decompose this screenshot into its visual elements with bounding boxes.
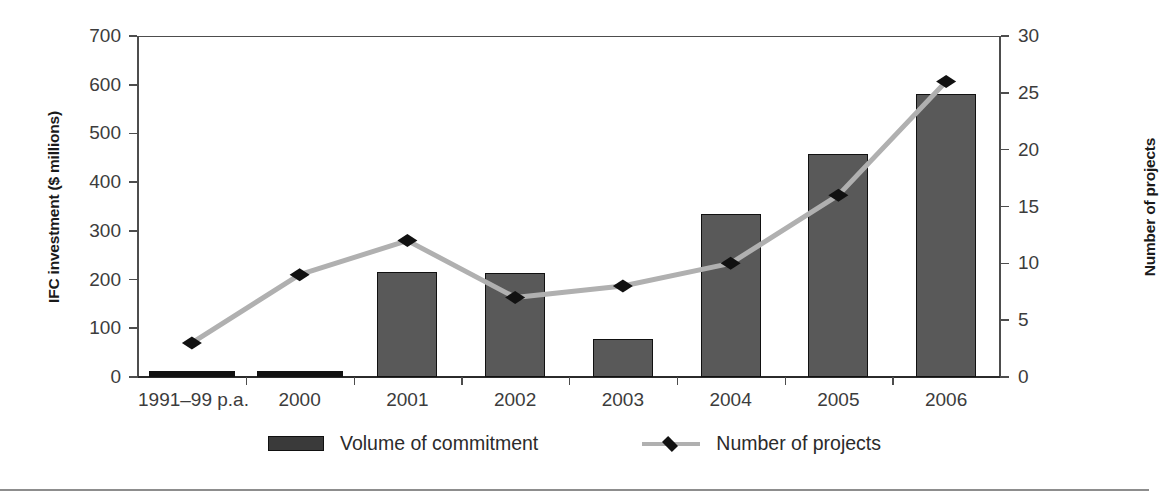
right-tick-label: 30 (1018, 26, 1138, 45)
plot-top-border (138, 36, 1000, 37)
right-tick-label: 15 (1018, 197, 1138, 216)
right-tick-mark (1001, 149, 1009, 151)
right-axis-title: Number of projects (1141, 57, 1159, 357)
right-tick-label: 25 (1018, 83, 1138, 102)
legend-item-volume: Volume of commitment (268, 432, 538, 455)
left-tick-mark (129, 279, 137, 281)
x-tick-label: 1991–99 p.a. (138, 389, 246, 411)
legend-label-projects: Number of projects (716, 432, 881, 455)
left-tick-mark (129, 230, 137, 232)
left-tick-label: 400 (1, 172, 121, 191)
x-tick-mark (785, 377, 786, 385)
x-tick-mark (892, 377, 893, 385)
x-tick-label: 2000 (246, 389, 354, 411)
left-tick-mark (129, 327, 137, 329)
left-tick-label: 700 (1, 26, 121, 45)
x-tick-label: 2004 (677, 389, 785, 411)
bar (485, 273, 545, 377)
left-tick-mark (129, 181, 137, 183)
right-tick-mark (1001, 35, 1009, 37)
x-tick-label: 2006 (892, 389, 1000, 411)
right-tick-mark (1001, 319, 1009, 321)
right-tick-label: 0 (1018, 367, 1138, 386)
x-tick-label: 2003 (569, 389, 677, 411)
bar (257, 371, 343, 377)
x-tick-mark (246, 377, 247, 385)
x-tick-label: 2002 (461, 389, 569, 411)
left-axis-title: IFC investment ($ millions) (45, 57, 63, 357)
right-tick-mark (1001, 92, 1009, 94)
x-tick-mark (569, 377, 570, 385)
right-tick-label: 5 (1018, 310, 1138, 329)
x-tick-label: 2001 (354, 389, 462, 411)
legend-label-volume: Volume of commitment (340, 432, 538, 455)
left-tick-mark (129, 376, 137, 378)
right-tick-mark (1001, 206, 1009, 208)
bar (377, 272, 437, 377)
x-tick-label: 2005 (785, 389, 893, 411)
right-tick-mark (1001, 376, 1009, 378)
bar (808, 154, 868, 377)
bar (149, 371, 235, 377)
left-tick-label: 600 (1, 75, 121, 94)
legend-item-projects: Number of projects (642, 432, 881, 455)
bar (593, 339, 653, 377)
left-tick-label: 500 (1, 123, 121, 142)
left-tick-label: 300 (1, 221, 121, 240)
x-tick-mark (677, 377, 678, 385)
left-tick-label: 200 (1, 270, 121, 289)
line-marker-swatch-icon (642, 437, 700, 451)
x-tick-mark (354, 377, 355, 385)
left-tick-label: 0 (1, 367, 121, 386)
x-tick-mark (461, 377, 462, 385)
bar (701, 214, 761, 377)
bar (916, 94, 976, 377)
left-tick-label: 100 (1, 318, 121, 337)
right-tick-label: 10 (1018, 253, 1138, 272)
legend: Volume of commitment Number of projects (0, 432, 1149, 455)
plot-area (138, 36, 1000, 377)
bar-swatch-icon (268, 436, 324, 451)
right-tick-label: 20 (1018, 140, 1138, 159)
right-tick-mark (1001, 263, 1009, 265)
left-tick-mark (129, 133, 137, 135)
left-tick-mark (129, 84, 137, 86)
left-tick-mark (129, 35, 137, 37)
